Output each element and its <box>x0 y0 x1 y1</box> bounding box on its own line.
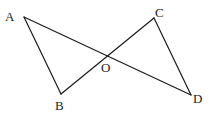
geometry-diagram: A B C D O <box>0 0 214 117</box>
segments <box>24 17 191 95</box>
label-point-b: B <box>55 98 64 113</box>
label-point-a: A <box>5 9 15 24</box>
label-point-d: D <box>193 91 202 106</box>
label-point-c: C <box>155 5 164 20</box>
segment-cd <box>154 18 191 95</box>
label-point-o: O <box>101 60 110 75</box>
segment-ab <box>24 17 61 94</box>
segment-bc <box>61 18 154 94</box>
